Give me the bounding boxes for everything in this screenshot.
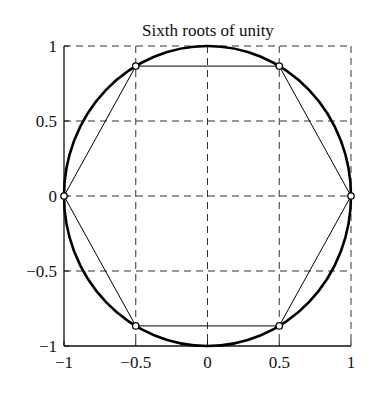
sixth-roots-chart: Sixth roots of unity −1−0.500.51 −1−0.50…: [0, 0, 381, 402]
chart-title: Sixth roots of unity: [142, 21, 274, 40]
root-marker: [348, 193, 354, 199]
root-marker: [133, 323, 139, 329]
y-tick-label: 0.5: [36, 112, 57, 131]
x-tick-label: 0.5: [269, 353, 290, 372]
x-tick-label: 0: [203, 353, 212, 372]
grid: [64, 46, 351, 346]
x-tick-label: −1: [55, 353, 73, 372]
y-tick-label: 1: [49, 37, 58, 56]
root-marker: [61, 193, 67, 199]
x-tick-label: −0.5: [120, 353, 151, 372]
y-tick-label: −0.5: [26, 262, 57, 281]
root-marker: [276, 323, 282, 329]
x-tick-label: 1: [347, 353, 356, 372]
y-tick-label: 0: [49, 187, 58, 206]
y-tick-label: −1: [39, 337, 57, 356]
root-marker: [276, 63, 282, 69]
root-marker: [133, 63, 139, 69]
